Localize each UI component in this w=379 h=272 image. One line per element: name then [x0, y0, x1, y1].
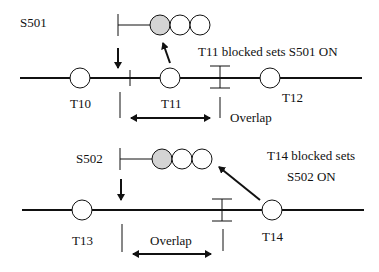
bottom-section: S502 T14 blocked sets S502 ON T13 T14 Ov… — [22, 148, 364, 254]
signal-s501-icon — [118, 14, 210, 36]
top-section: S501 T11 blocked sets S501 ON T10 T11 T1… — [20, 14, 362, 125]
arrow-diagonal-icon — [219, 167, 260, 200]
label-t11: T11 — [161, 96, 181, 111]
label-t10: T10 — [70, 96, 91, 111]
signal-label-s501: S501 — [20, 15, 47, 30]
track-circuit-t12-icon — [260, 68, 280, 88]
annotation-t14-blocked-line2: S502 ON — [287, 169, 336, 184]
annotation-t14-blocked-line1: T14 blocked sets — [267, 148, 355, 163]
track-circuit-t10-icon — [70, 68, 90, 88]
signal-label-s502: S502 — [76, 151, 103, 166]
label-t12: T12 — [282, 90, 303, 105]
arrow-up-icon — [163, 43, 170, 63]
interlocking-overlap-diagram: S501 T11 blocked sets S501 ON T10 T11 T1… — [0, 0, 379, 272]
signal-s502-icon — [120, 148, 212, 170]
label-t13: T13 — [72, 233, 93, 248]
overlap-label-bottom: Overlap — [150, 233, 192, 248]
track-circuit-t13-icon — [72, 200, 92, 220]
label-t14: T14 — [262, 229, 283, 244]
annotation-t11-blocked: T11 blocked sets S501 ON — [198, 44, 338, 59]
track-circuit-t14-icon — [262, 200, 282, 220]
overlap-label-top: Overlap — [230, 110, 272, 125]
track-circuit-t11-icon — [160, 68, 180, 88]
